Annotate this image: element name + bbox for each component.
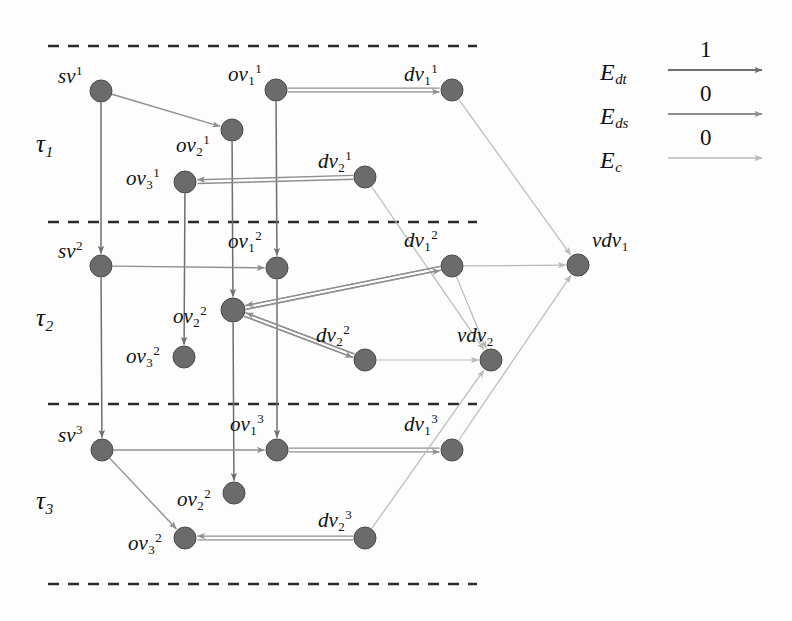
node-label-ov23: ov22 — [177, 487, 211, 512]
node-label-ov22: ov22 — [173, 304, 207, 329]
edge-dv13-vdv1 — [458, 275, 570, 440]
node-dv12[interactable] — [441, 255, 463, 277]
node-label-dv12: dv12 — [404, 228, 438, 253]
edge-dv23-vdv2 — [372, 370, 484, 528]
node-sv2[interactable] — [90, 255, 112, 277]
edge-ov21-ov22 — [232, 141, 233, 296]
node-label-dv23: dv23 — [318, 508, 352, 533]
tau-2-label: τ2 — [36, 305, 53, 333]
edge-sv2-ov12 — [112, 266, 264, 268]
node-ov31[interactable] — [174, 171, 196, 193]
node-label-ov11: ov11 — [228, 62, 262, 87]
tau-3-label: τ3 — [36, 488, 53, 516]
node-label-ov32: ov32 — [126, 344, 160, 369]
edge-ov11-ov12 — [276, 101, 277, 255]
node-ov21[interactable] — [221, 119, 243, 141]
node-ov11[interactable] — [265, 79, 287, 101]
node-vdv2[interactable] — [480, 349, 502, 371]
node-label-ov13: ov13 — [230, 412, 264, 437]
edge-sv3-ov33 — [110, 458, 177, 529]
node-label-dv22: dv22 — [316, 323, 350, 348]
node-label-ov33: ov32 — [128, 531, 162, 556]
node-dv22[interactable] — [354, 349, 376, 371]
node-label-sv2: sv2 — [58, 239, 83, 262]
node-label-dv21: dv21 — [318, 149, 352, 174]
legend-weight-Ec: 0 — [700, 126, 712, 149]
node-ov12[interactable] — [266, 257, 288, 279]
node-label-ov12: ov12 — [228, 229, 262, 254]
node-label-sv3: sv3 — [58, 423, 83, 446]
node-label-sv1: sv1 — [58, 64, 83, 87]
figure-canvas: sv1ov11dv11ov21dv21ov31sv2ov12dv12ov22dv… — [0, 0, 792, 621]
legend-weight-Eds: 0 — [700, 82, 712, 105]
edge-dv21-ov31 — [198, 179, 354, 183]
node-label-dv13: dv13 — [404, 412, 438, 437]
node-dv13[interactable] — [441, 439, 463, 461]
edge-dv11-vdv1 — [459, 99, 571, 255]
graph-svg — [0, 0, 792, 621]
node-ov33[interactable] — [174, 527, 196, 549]
edge-ov22-ov23 — [233, 322, 234, 480]
node-ov13[interactable] — [266, 439, 288, 461]
node-ov22[interactable] — [221, 298, 245, 322]
node-dv21[interactable] — [354, 166, 376, 188]
node-label-vdv1: vdv1 — [592, 230, 628, 253]
edge-dv12-vdv1 — [463, 265, 565, 266]
legend-label-Eds: Eds — [600, 104, 628, 131]
node-label-ov21: ov21 — [176, 133, 210, 158]
node-vdv1[interactable] — [567, 254, 589, 276]
legend-lines — [668, 70, 762, 158]
edge-dv21-ov31 — [197, 175, 353, 179]
legend-label-Ec: Ec — [600, 148, 622, 175]
legend-label-Edt: Edt — [600, 60, 627, 87]
node-dv11[interactable] — [441, 79, 463, 101]
node-label-ov31: ov31 — [126, 166, 160, 191]
node-dv23[interactable] — [354, 527, 376, 549]
node-ov32[interactable] — [173, 346, 195, 368]
node-sv3[interactable] — [91, 439, 113, 461]
node-label-dv11: dv11 — [404, 62, 438, 87]
edge-sv1-ov21 — [112, 94, 220, 126]
edge-sv2-sv3 — [101, 277, 102, 437]
node-sv1[interactable] — [90, 80, 112, 102]
node-ov23[interactable] — [223, 482, 245, 504]
tau-1-label: τ1 — [36, 131, 53, 159]
timeslice-dividers — [48, 46, 477, 584]
legend-weight-Edt: 1 — [700, 38, 712, 61]
node-label-vdv2: vdv2 — [457, 325, 493, 348]
